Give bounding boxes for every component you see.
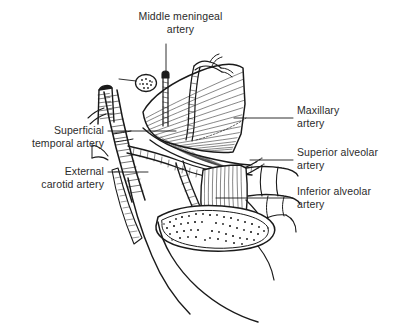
label-superior-alveolar-artery: Superior alveolar artery [297, 146, 392, 172]
label-line-2: artery [297, 159, 392, 172]
nerve-oval-cut [119, 75, 157, 92]
label-line-2: artery [128, 23, 233, 36]
label-line-1: Middle meningeal [128, 10, 233, 23]
label-line-2: carotid artery [14, 178, 104, 191]
label-line-1: External [14, 165, 104, 178]
label-superficial-temporal-artery: Superficial temporal artery [14, 124, 104, 150]
external-carotid-artery-vessel [104, 90, 145, 202]
label-line-2: temporal artery [14, 137, 104, 150]
label-external-carotid-artery: External carotid artery [14, 165, 104, 191]
label-middle-meningeal-artery: Middle meningeal artery [128, 10, 233, 36]
anatomical-figure: Middle meningeal artery Superficial temp… [0, 0, 394, 327]
label-line-1: Inferior alveolar [297, 185, 392, 198]
label-maxillary-artery: Maxillary artery [297, 104, 392, 130]
label-line-2: artery [297, 117, 392, 130]
label-line-1: Superior alveolar [297, 146, 392, 159]
label-inferior-alveolar-artery: Inferior alveolar artery [297, 185, 392, 211]
label-line-2: artery [297, 198, 392, 211]
label-line-1: Maxillary [297, 104, 392, 117]
label-line-1: Superficial [14, 124, 104, 137]
mandible-cut-section [156, 205, 275, 251]
